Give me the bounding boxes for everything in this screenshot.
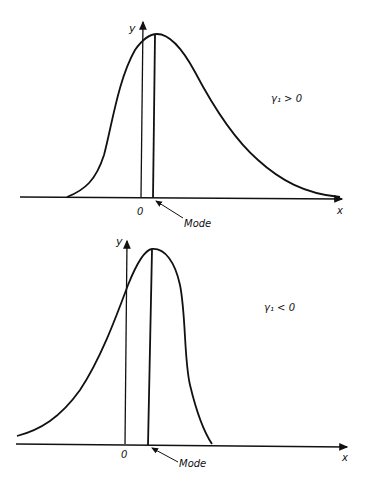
origin-label: 0 (137, 206, 143, 217)
mode-pointer (152, 448, 178, 462)
skewness-condition-label: γ₁ < 0 (264, 302, 295, 313)
x-axis-label: x (341, 452, 348, 463)
mode-line (153, 35, 155, 198)
mode-label: Mode (179, 458, 206, 469)
density-curve (17, 249, 212, 444)
mode-label: Mode (184, 218, 211, 229)
mode-line (148, 250, 152, 445)
mode-pointer (156, 201, 183, 218)
y-axis-label: y (128, 22, 136, 35)
panel-negative-skew: y x 0 γ₁ < 0 Mode (16, 235, 348, 469)
panel-positive-skew: y x 0 γ₁ > 0 Mode (20, 22, 343, 229)
y-axis (125, 241, 127, 444)
x-axis-label: x (336, 205, 343, 216)
x-axis (16, 444, 347, 447)
skewness-condition-label: γ₁ > 0 (271, 93, 302, 104)
density-curve (67, 34, 340, 197)
y-axis (141, 22, 143, 197)
y-axis-label: y (115, 235, 123, 248)
skewness-diagram: y x 0 γ₁ > 0 Mode y x 0 γ₁ < 0 Mode (0, 0, 369, 485)
origin-label: 0 (121, 449, 127, 460)
